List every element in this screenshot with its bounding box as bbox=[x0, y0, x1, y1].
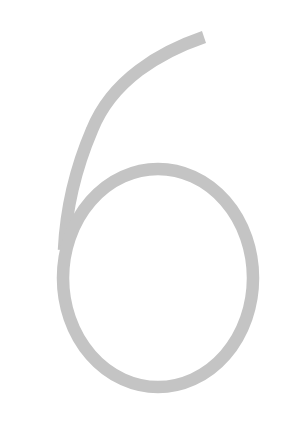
six-bowl-stroke bbox=[63, 169, 253, 387]
six-glyph-icon bbox=[0, 0, 284, 422]
digit-six-graphic: 6 bbox=[0, 0, 284, 422]
